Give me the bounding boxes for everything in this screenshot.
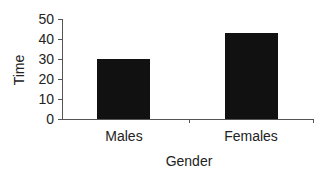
y-axis [62, 19, 63, 120]
x-tick [189, 119, 190, 123]
y-tick-label-30: 30 [30, 52, 54, 66]
x-tick [313, 119, 314, 123]
y-tick-label-10: 10 [30, 92, 54, 106]
x-tick-label-males: Males [84, 128, 164, 144]
y-tick-label-20: 20 [30, 72, 54, 86]
y-tick-label-0: 0 [30, 112, 54, 126]
y-axis-label: Time [11, 45, 27, 95]
y-tick-label-40: 40 [30, 32, 54, 46]
x-axis [62, 119, 314, 120]
x-axis-label: Gender [139, 153, 239, 169]
y-tick-label-50: 50 [30, 12, 54, 26]
bar-chart: Time 0 10 20 30 40 50 Males Females Gend… [0, 0, 328, 179]
x-tick-label-females: Females [211, 128, 291, 144]
bar-females [225, 33, 278, 119]
bar-males [97, 59, 150, 119]
